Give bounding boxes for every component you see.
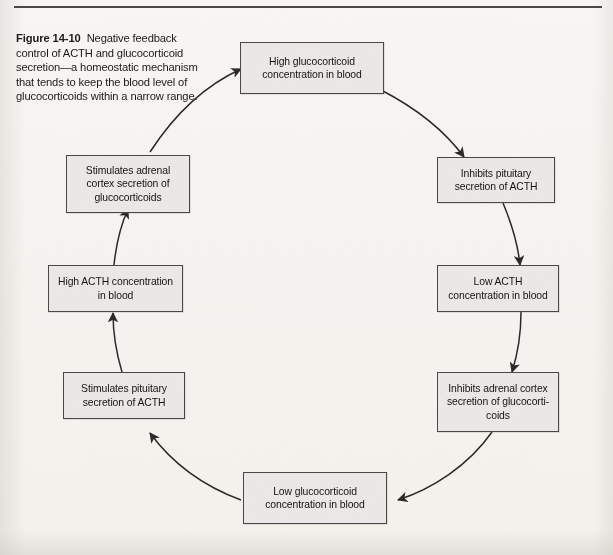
node-low-glucocorticoid-label: Low glucocorticoid concentration in bloo… [249,485,381,511]
edge-low-glucocorticoid-to-stimulates-pituitary [150,433,241,500]
edge-stimulates-pituitary-to-high-acth [113,313,122,372]
edge-high-acth-to-stimulates-adrenal [114,209,128,265]
edge-inhibits-adrenal-to-low-glucocorticoid [398,432,492,500]
page-header-rule [14,6,602,8]
figure-page: Figure 14-10 Negative feedback control o… [0,0,613,555]
figure-label: Figure 14-10 [16,32,81,44]
node-low-acth[interactable]: Low ACTH concentration in blood [437,265,559,312]
node-inhibits-adrenal[interactable]: Inhibits adrenal cortex secretion of glu… [437,372,559,432]
node-stimulates-pituitary[interactable]: Stimulates pituitary secretion of ACTH [63,372,185,419]
figure-caption: Figure 14-10 Negative feedback control o… [16,31,212,104]
node-high-acth[interactable]: High ACTH concentration in blood [48,265,183,312]
edge-inhibits-pituitary-to-low-acth [503,203,520,265]
node-low-acth-label: Low ACTH concentration in blood [443,275,553,301]
node-low-glucocorticoid[interactable]: Low glucocorticoid concentration in bloo… [243,472,387,524]
node-stimulates-adrenal-label: Stimulates adrenal cortex secretion of g… [72,164,184,204]
edge-low-acth-to-inhibits-adrenal [512,312,521,372]
node-inhibits-pituitary-label: Inhibits pituitary secretion of ACTH [443,167,549,193]
node-stimulates-adrenal[interactable]: Stimulates adrenal cortex secretion of g… [66,155,190,213]
node-high-glucocorticoid-label: High glucocorticoid concentration in blo… [246,55,378,81]
node-high-glucocorticoid[interactable]: High glucocorticoid concentration in blo… [240,42,384,94]
node-high-acth-label: High ACTH concentration in blood [54,275,177,301]
edge-high-glucocorticoid-to-inhibits-pituitary [381,90,464,157]
node-inhibits-pituitary[interactable]: Inhibits pituitary secretion of ACTH [437,157,555,203]
node-stimulates-pituitary-label: Stimulates pituitary secretion of ACTH [69,382,179,408]
node-inhibits-adrenal-label: Inhibits adrenal cortex secretion of glu… [443,382,553,422]
